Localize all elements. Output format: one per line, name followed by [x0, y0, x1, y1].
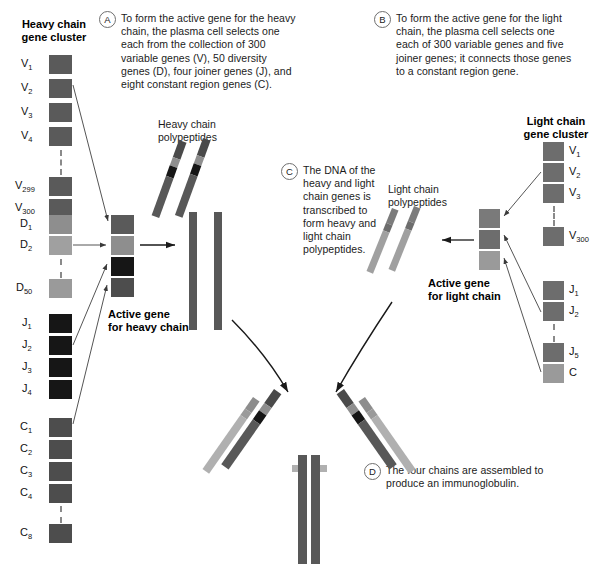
heavy-polypeptide-2	[175, 138, 222, 330]
heavy-selection-arrows	[73, 85, 108, 424]
heavy-polypeptide-1	[152, 140, 197, 330]
diagram-canvas: A To form the active gene for the heavy …	[0, 0, 608, 574]
diagram-vector-layer	[0, 0, 608, 574]
immunoglobulin-molecule	[203, 389, 416, 564]
ig-heavy-chain-left-stem	[298, 455, 307, 564]
light-selection-arrows	[504, 172, 541, 372]
assembly-arrows	[232, 302, 392, 392]
ig-heavy-chain-right-stem	[311, 455, 320, 564]
